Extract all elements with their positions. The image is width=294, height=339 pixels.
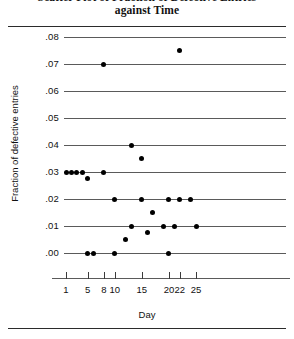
y-axis-tick-label: .00	[13, 247, 59, 258]
x-axis-tick	[88, 272, 89, 279]
gridline	[64, 64, 286, 65]
gridline	[64, 199, 286, 200]
datapoint	[172, 224, 177, 229]
datapoint	[112, 251, 117, 256]
y-axis-tick-label: .01	[13, 220, 59, 231]
datapoint	[129, 224, 134, 229]
x-axis-tick-label: 10	[104, 284, 126, 295]
datapoint	[139, 197, 144, 202]
x-axis-tick-label: 1	[55, 284, 77, 295]
datapoint	[80, 170, 85, 175]
x-axis-tick	[115, 272, 116, 279]
x-axis-tick-label: 25	[185, 284, 207, 295]
datapoint	[69, 170, 74, 175]
y-axis-tick-label: .07	[13, 58, 59, 69]
y-axis-tick-label: .08	[13, 31, 59, 42]
datapoint	[166, 197, 171, 202]
x-axis-tick	[142, 272, 143, 279]
datapoint	[161, 224, 166, 229]
datapoint	[150, 210, 155, 215]
datapoint	[145, 230, 150, 235]
figure-title: Scatter Plot of Fraction of Defective En…	[0, 0, 294, 17]
gridline	[64, 91, 286, 92]
x-axis-tick-label: 15	[131, 284, 153, 295]
gridline	[64, 145, 286, 146]
y-axis-tick-label: .02	[13, 193, 59, 204]
datapoint	[166, 251, 171, 256]
datapoint	[123, 237, 128, 242]
gridline	[64, 118, 286, 119]
datapoint	[101, 62, 106, 67]
datapoint	[64, 170, 69, 175]
x-axis-tick	[104, 272, 105, 279]
y-axis-tick-label: .03	[13, 166, 59, 177]
y-axis-tick-label: .06	[13, 85, 59, 96]
datapoint	[177, 197, 182, 202]
datapoint	[177, 48, 182, 53]
x-axis-tick	[180, 272, 181, 279]
x-axis-tick	[169, 272, 170, 279]
y-axis-tick-label: .04	[13, 139, 59, 150]
datapoint	[112, 197, 117, 202]
datapoint	[101, 170, 106, 175]
y-axis-tick-label: .05	[13, 112, 59, 123]
scatter-plot: Fraction of defective entries .00.01.02.…	[0, 26, 294, 300]
datapoint	[85, 176, 90, 181]
figure-bottom-rule	[8, 328, 286, 329]
gridline	[64, 172, 286, 173]
datapoint	[188, 197, 193, 202]
gridline	[64, 37, 286, 38]
x-axis-title: Day	[0, 309, 294, 320]
datapoint	[194, 224, 199, 229]
x-axis-tick	[66, 272, 67, 279]
datapoint	[129, 143, 134, 148]
datapoint	[139, 156, 144, 161]
gridline	[64, 253, 286, 254]
datapoint	[91, 251, 96, 256]
x-axis-tick	[196, 272, 197, 279]
figure-title-line-2: against Time	[0, 4, 294, 17]
datapoint	[74, 170, 79, 175]
datapoint	[85, 251, 90, 256]
